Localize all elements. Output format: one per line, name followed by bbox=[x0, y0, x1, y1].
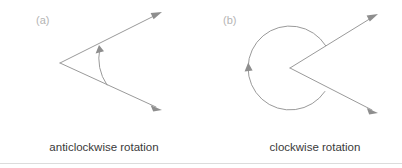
panel-b-arc-arrowhead-icon bbox=[245, 63, 253, 72]
panel-b-caption: clockwise rotation bbox=[270, 141, 361, 153]
panel-a-caption: anticlockwise rotation bbox=[49, 141, 158, 153]
figure-canvas: (a) anticlockwise rotation (b) bbox=[0, 0, 402, 168]
panel-a-label: (a) bbox=[36, 14, 49, 26]
panel-a-arc-arrowhead-icon bbox=[96, 45, 104, 53]
panel-b-upper-arrowhead-icon bbox=[367, 14, 378, 22]
panel-a-rotation-arc bbox=[99, 49, 107, 85]
panel-b-label: (b) bbox=[223, 14, 236, 26]
panel-a-lower-arrowhead-icon bbox=[151, 105, 162, 111]
panel-a-lower-ray bbox=[60, 63, 156, 107]
panel-b-lower-arrowhead-icon bbox=[367, 108, 378, 115]
panel-a: (a) anticlockwise rotation bbox=[36, 12, 162, 153]
panel-b-lower-ray bbox=[290, 68, 372, 110]
rotation-figure: (a) anticlockwise rotation (b) bbox=[0, 0, 402, 168]
panel-a-upper-ray bbox=[60, 15, 156, 63]
panel-b-upper-ray bbox=[290, 18, 372, 69]
panel-b-rotation-arc bbox=[248, 26, 326, 110]
panel-b: (b) clockwise rotation bbox=[223, 14, 378, 153]
panel-a-upper-arrowhead-icon bbox=[151, 12, 162, 19]
